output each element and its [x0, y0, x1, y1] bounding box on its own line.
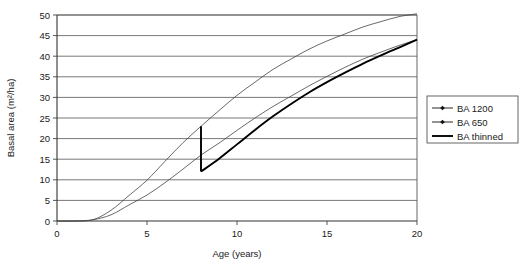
legend-item-label: BA 650	[457, 117, 488, 128]
y-tick-label: 25	[39, 113, 50, 124]
chart-container: 05101520253035404550 05101520 Age (years…	[0, 0, 523, 271]
series-line-ba-650	[57, 40, 417, 221]
y-tick-label: 35	[39, 71, 50, 82]
x-tick-label: 15	[322, 228, 333, 239]
y-tick-label: 30	[39, 92, 50, 103]
x-tick-label: 5	[144, 228, 149, 239]
series-line-ba-1200	[57, 14, 417, 221]
x-axis-title: Age (years)	[212, 248, 261, 259]
y-tick-label: 40	[39, 51, 50, 62]
gridlines	[57, 15, 417, 200]
y-tick-label: 10	[39, 174, 50, 185]
x-axis-ticks: 05101520	[54, 221, 422, 239]
y-tick-label: 5	[45, 195, 50, 206]
y-tick-label: 20	[39, 133, 50, 144]
series-line-ba-thinned	[201, 40, 417, 172]
x-tick-label: 0	[54, 228, 59, 239]
y-tick-label: 50	[39, 10, 50, 21]
y-tick-label: 15	[39, 154, 50, 165]
y-tick-label: 45	[39, 30, 50, 41]
y-axis-title: Basal area (m²/ha)	[5, 79, 16, 158]
y-tick-label: 0	[45, 216, 50, 227]
legend-item-label: BA thinned	[457, 131, 503, 142]
basal-area-line-chart: 05101520253035404550 05101520 Age (years…	[0, 0, 523, 271]
legend-item-label: BA 1200	[457, 103, 493, 114]
x-tick-label: 10	[232, 228, 243, 239]
y-axis-ticks: 05101520253035404550	[39, 10, 57, 227]
data-series-group	[57, 1, 417, 221]
x-tick-label: 20	[412, 228, 423, 239]
chart-legend: BA 1200BA 650BA thinned	[427, 96, 518, 143]
